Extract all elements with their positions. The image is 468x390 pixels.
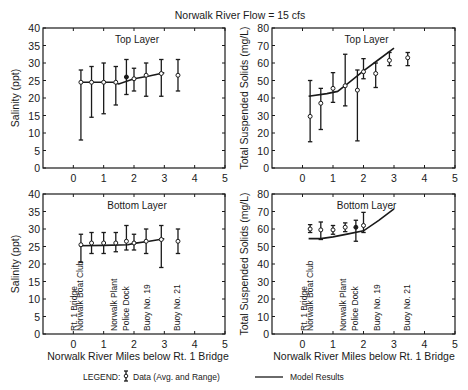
y-tick-label: 10 [257, 311, 269, 323]
panel-bottom-tss: 01234501020304050607080Total Suspended S… [238, 188, 458, 350]
y-tick-label: 70 [257, 40, 269, 52]
x-tick-label: 3 [391, 172, 397, 184]
y-tick-label: 30 [257, 110, 269, 122]
y-tick-label: 40 [28, 22, 40, 34]
y-tick-label: 40 [257, 258, 269, 270]
data-point [343, 223, 347, 232]
legend-data-label: Data (Avg. and Range) [133, 372, 220, 382]
y-tick-label: 40 [257, 92, 269, 104]
data-point [159, 60, 163, 97]
data-point [124, 226, 128, 251]
data-point [132, 68, 136, 91]
figure: Norwalk River Flow = 15 cfs 012345051015… [0, 0, 468, 390]
x-tick-label: 5 [452, 172, 458, 184]
y-tick-label: 70 [257, 206, 269, 218]
y-tick-label: 5 [34, 145, 40, 157]
y-tick-label: 20 [257, 293, 269, 305]
x-tick-label: 2 [361, 338, 367, 350]
panel-bottom-salinity: 0123450510152025303540Salinity (ppt)Bott… [9, 188, 228, 350]
location-label: Norwalk Boat Club [75, 260, 85, 331]
y-tick-label: 0 [34, 328, 40, 340]
x-tick-label: 1 [101, 338, 107, 350]
data-point [354, 220, 358, 241]
x-tick-label: 2 [131, 172, 137, 184]
x-tick-label: 3 [161, 172, 167, 184]
location-label: Norwalk Plant [109, 278, 119, 331]
location-label: Police Dock [350, 285, 360, 331]
location-label: Norwalk Plant [338, 278, 348, 331]
y-tick-label: 10 [28, 127, 40, 139]
plot-frame [43, 28, 225, 168]
y-tick-label: 25 [28, 241, 40, 253]
location-label: Buoy No. 19 [142, 284, 152, 331]
y-axis-label: Total Suspended Solids (mg/L) [238, 193, 250, 336]
x-tick-label: 2 [361, 172, 367, 184]
y-tick-label: 30 [28, 223, 40, 235]
y-tick-label: 15 [28, 276, 40, 288]
panel-title: Bottom Layer [107, 200, 167, 211]
data-point [176, 229, 180, 254]
y-tick-label: 60 [257, 223, 269, 235]
x-tick-label: 5 [222, 172, 228, 184]
x-tick-label: 0 [300, 172, 306, 184]
y-tick-label: 80 [257, 188, 269, 200]
data-point [387, 53, 391, 66]
y-tick-label: 20 [28, 92, 40, 104]
location-label: Buoy No. 21 [172, 284, 182, 331]
data-point [319, 222, 323, 240]
x-tick-label: 4 [192, 172, 198, 184]
legend: LEGEND: Data (Avg. and Range) Model Resu… [83, 371, 344, 382]
x-tick-label: 1 [330, 338, 336, 350]
data-point [331, 226, 335, 235]
x-axis-label-right: Norwalk River Miles below Rt. 1 Bridge [273, 350, 455, 362]
legend-title: LEGEND: [83, 372, 120, 382]
y-tick-label: 80 [257, 22, 269, 34]
data-point [176, 60, 180, 92]
legend-data-marker-icon [124, 371, 128, 381]
location-label: Police Dock [121, 285, 131, 331]
x-tick-label: 0 [300, 338, 306, 350]
y-tick-label: 60 [257, 57, 269, 69]
x-tick-label: 1 [330, 172, 336, 184]
data-point [79, 234, 83, 262]
data-point [144, 229, 148, 254]
panel-top-salinity: 0123450510152025303540Salinity (ppt)Top … [9, 22, 228, 184]
y-tick-label: 35 [28, 206, 40, 218]
data-point [361, 59, 365, 79]
x-axis-label-left: Norwalk River Miles below Rt. 1 Bridge [47, 350, 229, 362]
data-point [101, 233, 105, 254]
data-point [89, 67, 93, 118]
x-tick-label: 4 [422, 172, 428, 184]
data-point [159, 226, 163, 268]
y-tick-label: 10 [28, 293, 40, 305]
data-point [101, 63, 105, 114]
x-tick-label: 1 [101, 172, 107, 184]
location-label: Norwalk Boat Club [305, 260, 315, 331]
y-tick-label: 15 [28, 110, 40, 122]
data-point [331, 73, 335, 103]
panel-top-tss: 01234501020304050607080Total Suspended S… [238, 22, 458, 184]
location-label: Buoy No. 19 [372, 284, 382, 331]
data-point [114, 67, 118, 106]
data-point [308, 225, 312, 233]
figure-title: Norwalk River Flow = 15 cfs [175, 9, 305, 21]
y-tick-label: 30 [257, 276, 269, 288]
x-tick-label: 2 [131, 338, 137, 350]
plot-frame [272, 28, 455, 168]
x-tick-label: 5 [452, 338, 458, 350]
data-point [124, 60, 128, 95]
y-tick-label: 50 [257, 75, 269, 87]
x-tick-label: 4 [422, 338, 428, 350]
data-point [406, 53, 410, 66]
x-tick-label: 0 [70, 172, 76, 184]
data-point [89, 233, 93, 254]
data-point [132, 234, 136, 250]
y-tick-label: 20 [28, 258, 40, 270]
data-point [79, 70, 83, 140]
x-tick-label: 4 [192, 338, 198, 350]
y-axis-label: Total Suspended Solids (mg/L) [238, 27, 250, 170]
x-tick-label: 0 [70, 338, 76, 350]
x-tick-label: 3 [161, 338, 167, 350]
data-point [114, 233, 118, 252]
legend-model-label: Model Results [290, 372, 344, 382]
